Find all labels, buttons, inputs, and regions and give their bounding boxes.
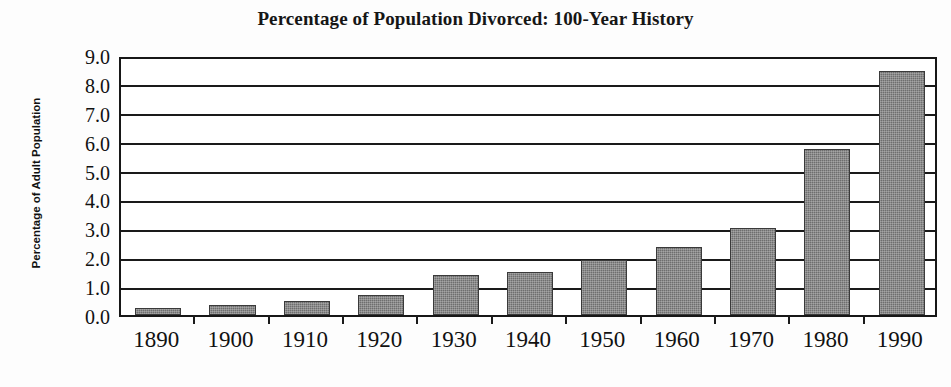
x-tick-label: 1910 (282, 327, 328, 353)
x-tick-label: 1980 (802, 327, 848, 353)
bar-1930 (433, 275, 479, 315)
x-tick-mark (714, 315, 716, 324)
y-tick-label: 7.0 (52, 104, 110, 126)
bar-1910 (284, 301, 330, 315)
x-tick-mark (193, 315, 195, 324)
x-tick-mark (342, 315, 344, 324)
y-tick-label: 5.0 (52, 162, 110, 184)
x-tick-label: 1920 (356, 327, 402, 353)
chart-title: Percentage of Population Divorced: 100-Y… (0, 8, 951, 30)
y-tick-label: 1.0 (52, 277, 110, 299)
bar-1920 (358, 295, 404, 315)
bar-1960 (656, 247, 702, 315)
y-tick-label: 6.0 (52, 133, 110, 155)
x-tick-mark (416, 315, 418, 324)
x-tick-label: 1930 (431, 327, 477, 353)
x-tick-label: 1940 (505, 327, 551, 353)
y-tick-label: 4.0 (52, 190, 110, 212)
x-tick-mark (863, 315, 865, 324)
x-tick-mark (788, 315, 790, 324)
bar-1940 (507, 272, 553, 315)
x-axis-ticks (119, 315, 937, 325)
y-tick-label: 2.0 (52, 248, 110, 270)
y-tick-label: 8.0 (52, 75, 110, 97)
chart-figure: Percentage of Population Divorced: 100-Y… (0, 0, 951, 387)
bars-layer (121, 59, 935, 315)
bar-1890 (135, 308, 181, 315)
x-tick-mark (268, 315, 270, 324)
x-tick-label: 1990 (877, 327, 923, 353)
x-tick-label: 1890 (133, 327, 179, 353)
bar-1900 (209, 305, 255, 315)
bar-1980 (804, 149, 850, 315)
x-tick-mark (565, 315, 567, 324)
x-tick-label: 1900 (208, 327, 254, 353)
y-axis-title: Percentage of Adult Population (30, 68, 42, 298)
x-tick-label: 1950 (579, 327, 625, 353)
y-tick-label: 9.0 (52, 46, 110, 68)
bar-1990 (879, 71, 925, 315)
plot-area (119, 57, 937, 317)
x-axis-tick-labels: 1890190019101920193019401950196019701980… (119, 327, 937, 361)
y-tick-label: 0.0 (52, 306, 110, 328)
x-tick-mark (491, 315, 493, 324)
x-tick-label: 1970 (728, 327, 774, 353)
x-tick-label: 1960 (654, 327, 700, 353)
bar-1970 (730, 228, 776, 315)
y-tick-label: 3.0 (52, 219, 110, 241)
x-tick-mark (640, 315, 642, 324)
bar-1950 (581, 260, 627, 315)
y-axis-tick-labels: 9.08.07.06.05.04.03.02.01.00.0 (52, 46, 110, 328)
